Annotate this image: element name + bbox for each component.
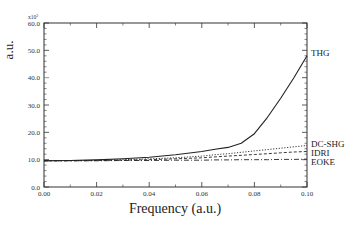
axis-tick-labels: 0.000.020.040.060.080.100.010.020.030.04… <box>28 20 314 199</box>
y-tick-label: 10.0 <box>28 156 41 164</box>
plot-border <box>44 23 307 187</box>
series-label-eoke: EOKE <box>311 157 335 167</box>
axis-ticks <box>44 23 307 187</box>
plot-frame <box>44 23 307 187</box>
x-tick-label: 0.02 <box>90 190 103 198</box>
x-tick-label: 0.10 <box>301 190 314 198</box>
x-tick-label: 0.08 <box>248 190 261 198</box>
y-tick-label: 20.0 <box>28 129 41 137</box>
line-chart: 0.000.020.040.060.080.100.010.020.030.04… <box>0 0 358 225</box>
y-tick-label: 30.0 <box>28 102 41 110</box>
series-line-thg <box>44 56 307 161</box>
x-axis-title: Frequency (a.u.) <box>129 201 221 217</box>
y-tick-label: 60.0 <box>28 20 41 28</box>
series-lines <box>44 56 307 161</box>
series-label-thg: THG <box>311 48 330 58</box>
y-axis-title: a.u. <box>1 41 16 60</box>
y-tick-label: 40.0 <box>28 74 41 82</box>
y-tick-label: 50.0 <box>28 47 41 55</box>
y-tick-label: 0.0 <box>31 184 40 192</box>
x-tick-label: 0.04 <box>143 190 156 198</box>
multiplier-base: x10 <box>28 14 37 20</box>
multiplier-exp: 2 <box>36 13 38 18</box>
x-tick-label: 0.06 <box>196 190 209 198</box>
